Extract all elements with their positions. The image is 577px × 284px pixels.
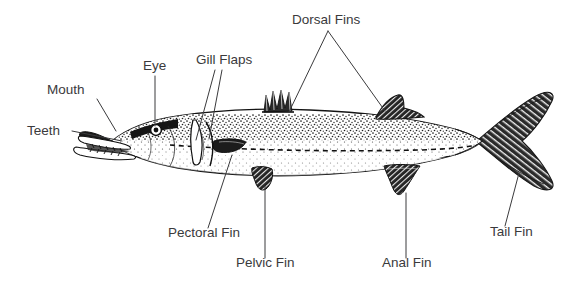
label-eye: Eye xyxy=(143,58,166,73)
eye-illustration xyxy=(151,125,162,136)
leader-line-dorsal-fins-b xyxy=(328,31,385,111)
leader-line-mouth xyxy=(97,99,116,131)
label-gill-flaps: Gill Flaps xyxy=(196,52,253,67)
barracuda-illustration xyxy=(74,90,553,195)
second-dorsal-fin-illustration xyxy=(376,95,424,119)
label-dorsal-fins: Dorsal Fins xyxy=(292,12,361,27)
leader-line-dorsal-fins-a xyxy=(289,31,328,112)
label-teeth: Teeth xyxy=(27,123,60,138)
tail-fin-illustration xyxy=(478,92,553,190)
label-pectoral-fin: Pectoral Fin xyxy=(168,225,240,240)
label-anal-fin: Anal Fin xyxy=(382,255,432,270)
body-illustration xyxy=(100,98,500,176)
leader-line-tail-fin xyxy=(505,173,519,226)
label-pelvic-fin: Pelvic Fin xyxy=(236,255,295,270)
label-tail-fin: Tail Fin xyxy=(490,224,533,239)
label-mouth: Mouth xyxy=(47,82,85,97)
anal-fin-illustration xyxy=(384,165,420,195)
fish-anatomy-diagram: Mouth Teeth Eye Gill Flaps Dorsal Fins P… xyxy=(0,0,577,284)
first-dorsal-fin-illustration xyxy=(262,90,294,112)
pelvic-fin-illustration xyxy=(252,167,273,190)
diagram-canvas: Mouth Teeth Eye Gill Flaps Dorsal Fins P… xyxy=(0,0,577,284)
